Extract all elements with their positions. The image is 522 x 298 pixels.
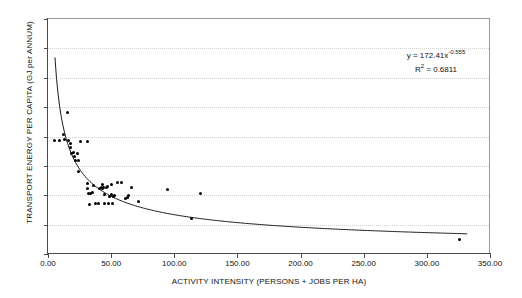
data-point <box>62 133 65 136</box>
x-tick-label: 0.00 <box>23 259 73 268</box>
data-point <box>76 152 79 155</box>
data-point <box>103 202 106 205</box>
x-tick-label: 250.00 <box>339 259 389 268</box>
x-tick-label: 150.00 <box>212 259 262 268</box>
data-point <box>63 138 66 141</box>
x-tick-mark <box>111 254 112 258</box>
x-tick-mark <box>427 254 428 258</box>
data-point <box>92 184 95 187</box>
data-point <box>86 182 89 185</box>
x-tick-mark <box>48 254 49 258</box>
x-tick-mark <box>490 254 491 258</box>
data-point <box>77 159 80 162</box>
equation-exponent: -0.555 <box>448 49 465 55</box>
r-squared-value: = 0.6811 <box>424 64 457 73</box>
x-axis-title: ACTIVITY INTENSITY (PERSONS + JOBS PER H… <box>48 277 490 286</box>
data-point <box>166 188 169 191</box>
x-tick-mark <box>237 254 238 258</box>
data-point <box>97 202 100 205</box>
x-tick-mark <box>301 254 302 258</box>
data-point <box>199 192 202 195</box>
r-squared-line: R2 = 0.6811 <box>384 61 488 75</box>
x-tick-label: 350.00 <box>465 259 515 268</box>
x-tick-mark <box>364 254 365 258</box>
data-point <box>116 181 119 184</box>
data-point <box>72 151 75 154</box>
data-point <box>137 200 140 203</box>
x-tick-label: 200.00 <box>276 259 326 268</box>
data-point <box>107 202 110 205</box>
equation-line: y = 172.41x-0.555 <box>384 47 488 61</box>
data-point <box>91 191 94 194</box>
data-point <box>66 111 69 114</box>
equation-text: y = 172.41x <box>407 51 449 60</box>
x-tick-label: 300.00 <box>402 259 452 268</box>
x-tick-mark <box>174 254 175 258</box>
chart-figure: TRANSPORT ENERGY PER CAPITA (GJ per ANNU… <box>0 0 522 298</box>
regression-annotation: y = 172.41x-0.555 R2 = 0.6811 <box>384 47 488 74</box>
y-axis-title: TRANSPORT ENERGY PER CAPITA (GJ per ANNU… <box>25 0 34 248</box>
data-point <box>130 186 133 189</box>
x-tick-label: 100.00 <box>149 259 199 268</box>
x-tick-label: 50.00 <box>86 259 136 268</box>
data-point <box>88 203 91 206</box>
data-point <box>73 155 76 158</box>
